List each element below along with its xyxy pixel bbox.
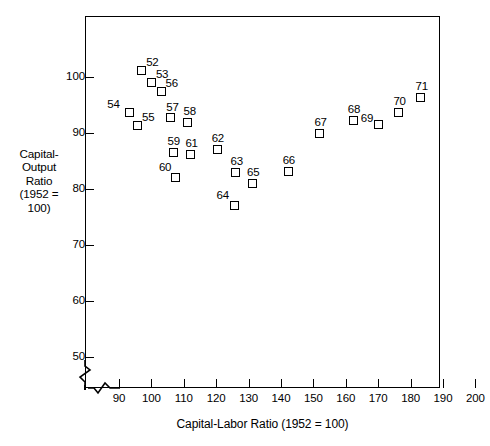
y-tick-label: 60 xyxy=(59,295,85,307)
data-point-marker[interactable] xyxy=(157,87,166,96)
x-tick-label: 130 xyxy=(232,392,266,405)
x-tick-label: 150 xyxy=(296,392,330,405)
data-point-label: 60 xyxy=(159,162,171,174)
x-tick-label-wrap: 200 xyxy=(458,392,490,406)
y-tick-label-wrap: 100 xyxy=(51,71,85,83)
data-point-marker[interactable] xyxy=(394,108,403,117)
x-tick-label: 200 xyxy=(458,392,490,405)
data-point-label: 54 xyxy=(107,99,119,111)
y-axis-title-line-5: 100) xyxy=(2,201,76,214)
x-tick-label: 190 xyxy=(426,392,460,405)
data-point-marker[interactable] xyxy=(248,179,257,188)
data-point-marker[interactable] xyxy=(230,201,239,210)
data-point-label: 58 xyxy=(184,106,196,118)
x-tick-label: 170 xyxy=(361,392,395,405)
data-point-marker[interactable] xyxy=(231,168,240,177)
data-point-marker[interactable] xyxy=(284,167,293,176)
data-point-marker[interactable] xyxy=(125,108,134,117)
data-point-marker[interactable] xyxy=(166,113,175,122)
x-tick-label-wrap: 140 xyxy=(264,392,298,406)
x-tick-mark xyxy=(249,379,250,388)
data-point-label: 64 xyxy=(217,190,229,202)
x-tick-mark xyxy=(313,379,314,388)
x-tick-mark xyxy=(216,379,217,388)
y-axis-title: Capital- Output Ratio (1952 = 100) xyxy=(2,147,76,214)
y-tick-mark xyxy=(85,301,94,302)
data-point-label: 57 xyxy=(166,102,178,114)
y-tick-label-wrap: 70 xyxy=(51,239,85,251)
x-tick-mark xyxy=(346,379,347,388)
data-point-marker[interactable] xyxy=(137,66,146,75)
data-point-label: 61 xyxy=(185,138,197,150)
x-axis-title: Capital-Labor Ratio (1952 = 100) xyxy=(85,417,440,431)
x-tick-label-wrap: 110 xyxy=(167,392,201,406)
x-tick-mark xyxy=(443,379,444,388)
data-point-label: 67 xyxy=(314,117,326,129)
x-tick-label: 160 xyxy=(329,392,363,405)
y-tick-label-wrap: 60 xyxy=(51,295,85,307)
y-tick-label: 70 xyxy=(59,239,85,251)
data-point-marker[interactable] xyxy=(183,118,192,127)
data-point-marker[interactable] xyxy=(374,120,383,129)
data-point-label: 55 xyxy=(142,112,154,124)
x-tick-label-wrap: 180 xyxy=(394,392,428,406)
y-tick-label: 100 xyxy=(59,71,85,83)
data-point-label: 56 xyxy=(166,78,178,90)
data-point-label: 71 xyxy=(415,81,427,93)
data-point-label: 69 xyxy=(361,113,373,125)
data-point-marker[interactable] xyxy=(213,145,222,154)
data-point-label: 66 xyxy=(283,155,295,167)
data-point-marker[interactable] xyxy=(315,129,324,138)
x-tick-mark xyxy=(475,379,476,388)
y-tick-label-wrap: 90 xyxy=(51,127,85,139)
y-axis-title-line-4: (1952 = xyxy=(2,187,76,200)
x-tick-mark xyxy=(151,379,152,388)
data-point-label: 68 xyxy=(348,104,360,116)
y-tick-mark xyxy=(85,245,94,246)
x-tick-mark xyxy=(378,379,379,388)
data-point-marker[interactable] xyxy=(147,78,156,87)
data-point-marker[interactable] xyxy=(169,148,178,157)
x-tick-mark xyxy=(411,379,412,388)
x-tick-label-wrap: 160 xyxy=(329,392,363,406)
y-axis-title-line-2: Output xyxy=(2,160,76,173)
x-tick-label-wrap: 150 xyxy=(296,392,330,406)
data-point-label: 63 xyxy=(230,156,242,168)
x-axis-left-stub xyxy=(84,387,90,389)
data-point-label: 65 xyxy=(247,167,259,179)
x-tick-label-wrap: 130 xyxy=(232,392,266,406)
data-point-label: 70 xyxy=(393,96,405,108)
y-axis-title-line-3: Ratio xyxy=(2,174,76,187)
data-point-label: 59 xyxy=(168,136,180,148)
data-point-marker[interactable] xyxy=(186,150,195,159)
x-tick-label-wrap: 190 xyxy=(426,392,460,406)
x-tick-label: 100 xyxy=(134,392,168,405)
y-tick-mark xyxy=(85,357,94,358)
data-point-marker[interactable] xyxy=(416,93,425,102)
x-tick-mark xyxy=(184,379,185,388)
x-tick-label: 110 xyxy=(167,392,201,405)
x-tick-label: 180 xyxy=(394,392,428,405)
y-tick-label: 90 xyxy=(59,127,85,139)
x-axis-break-icon xyxy=(88,379,120,397)
data-point-marker[interactable] xyxy=(171,173,180,182)
data-point-marker[interactable] xyxy=(133,121,142,130)
y-tick-mark xyxy=(85,77,94,78)
x-tick-label: 140 xyxy=(264,392,298,405)
data-point-label: 52 xyxy=(146,57,158,69)
y-axis-title-line-1: Capital- xyxy=(2,147,76,160)
y-tick-mark xyxy=(85,189,94,190)
data-point-marker[interactable] xyxy=(349,116,358,125)
x-tick-label-wrap: 120 xyxy=(199,392,233,406)
data-point-label: 62 xyxy=(212,133,224,145)
x-tick-label: 120 xyxy=(199,392,233,405)
x-tick-label-wrap: 170 xyxy=(361,392,395,406)
x-tick-mark xyxy=(281,379,282,388)
x-tick-label-wrap: 100 xyxy=(134,392,168,406)
y-tick-mark xyxy=(85,133,94,134)
